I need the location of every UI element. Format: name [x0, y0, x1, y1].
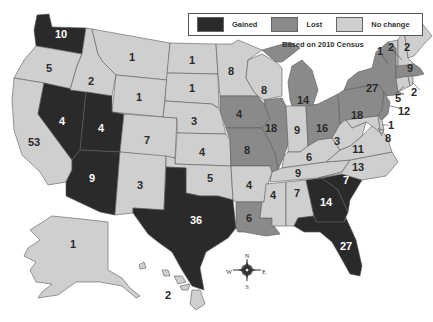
legend-item-gained: Gained	[197, 17, 257, 32]
seat-label-wi: 8	[261, 84, 267, 96]
us-map: 1055342114973113453684846818149166947142…	[0, 0, 433, 322]
seat-label-ne: 3	[191, 115, 197, 127]
seat-label-fl: 27	[340, 240, 352, 252]
seat-label-mo: 8	[244, 144, 250, 156]
legend: Gained Lost No change	[188, 13, 423, 36]
seat-label-ok: 5	[207, 172, 213, 184]
seat-label-nv: 4	[59, 115, 66, 127]
seat-label-va: 11	[352, 143, 364, 155]
compass-n: N	[245, 252, 250, 259]
compass-w: W	[226, 268, 233, 275]
seat-label-ny: 27	[366, 82, 378, 94]
seat-label-ky: 6	[306, 151, 312, 163]
seat-label-ia: 4	[236, 108, 243, 120]
legend-label-lost: Lost	[306, 20, 322, 29]
seat-label-co: 7	[144, 134, 150, 146]
legend-label-no-change: No change	[371, 20, 409, 29]
seat-label-al: 7	[294, 187, 300, 199]
seat-label-nj: 12	[398, 105, 410, 117]
seat-label-tx: 36	[190, 214, 202, 226]
seat-label-me: 2	[404, 41, 410, 53]
seat-label-wa: 10	[55, 28, 67, 40]
seat-label-az: 9	[89, 172, 95, 184]
seat-label-mi: 14	[297, 94, 310, 106]
seat-label-mn: 8	[228, 65, 234, 77]
seat-label-nc: 13	[352, 161, 364, 173]
seat-label-sd: 1	[189, 82, 195, 94]
seat-label-ca: 53	[28, 136, 40, 148]
seat-label-nh: 2	[388, 41, 394, 53]
legend-item-no-change: No change	[336, 17, 409, 32]
legend-label-gained: Gained	[232, 20, 257, 29]
compass-e: E	[262, 268, 266, 275]
compass-s: S	[245, 283, 249, 290]
state-ia[interactable]	[220, 96, 270, 128]
seat-label-ut: 4	[98, 122, 105, 134]
seat-label-or: 5	[46, 62, 52, 74]
seat-label-ma: 9	[407, 62, 413, 74]
legend-swatch-no-change	[336, 17, 363, 32]
legend-swatch-lost	[271, 17, 298, 32]
compass-rose-icon: N S E W	[226, 252, 266, 290]
seat-label-id: 2	[88, 75, 94, 87]
state-ak[interactable]	[24, 216, 140, 298]
seat-label-sc: 7	[343, 174, 349, 186]
seat-label-ri: 2	[411, 86, 417, 98]
legend-swatch-gained	[197, 17, 224, 32]
seat-label-hi: 2	[165, 289, 171, 301]
seat-label-ga: 14	[320, 196, 333, 208]
seat-label-mt: 1	[129, 51, 135, 63]
state-ct[interactable]	[396, 76, 410, 92]
seat-label-la: 6	[246, 212, 252, 224]
seat-label-de: 1	[388, 119, 394, 131]
seat-label-ms: 4	[270, 189, 277, 201]
seat-label-ar: 4	[246, 179, 253, 191]
seat-label-ak: 1	[70, 238, 76, 250]
census-note: Based on 2010 Census	[282, 40, 364, 49]
seat-label-ks: 4	[199, 146, 206, 158]
seat-label-wy: 1	[136, 91, 142, 103]
seat-label-oh: 16	[316, 122, 328, 134]
seat-label-wv: 3	[334, 135, 340, 147]
seat-label-nm: 3	[137, 179, 143, 191]
seat-label-il: 18	[265, 122, 277, 134]
seat-label-pa: 18	[351, 109, 363, 121]
legend-item-lost: Lost	[271, 17, 322, 32]
seat-label-nd: 1	[189, 54, 195, 66]
seat-label-md: 8	[385, 132, 391, 144]
seat-label-tn: 9	[295, 167, 301, 179]
seat-label-in: 9	[294, 124, 300, 136]
